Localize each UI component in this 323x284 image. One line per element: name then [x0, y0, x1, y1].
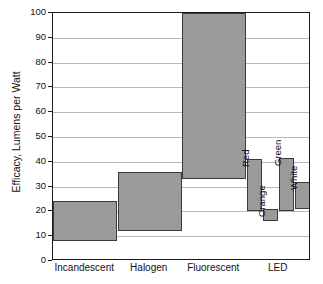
y-tick-label: 10 — [35, 230, 46, 240]
gridline — [53, 137, 309, 138]
series-label-orange: Orange — [257, 185, 267, 217]
gridline — [53, 63, 309, 64]
y-tick-label: 100 — [30, 7, 46, 17]
series-label-green: Green — [273, 140, 283, 166]
x-tick-label-led: LED — [268, 262, 287, 273]
y-tick-label: 40 — [35, 156, 46, 166]
plot-area: RedOrangeGreenWhite — [52, 12, 310, 260]
y-tick-label: 70 — [35, 81, 46, 91]
y-axis-ticks: 0102030405060708090100 — [0, 0, 52, 284]
y-tick-label: 30 — [35, 181, 46, 191]
x-tick-label-fluorescent: Fluorescent — [187, 262, 239, 273]
y-tick-label: 80 — [35, 57, 46, 67]
bar-fluorescent — [182, 13, 246, 179]
gridline — [53, 162, 309, 163]
efficacy-bar-chart: Efficacy, Lumens per Watt 01020304050607… — [0, 0, 323, 284]
x-tick-label-incandescent: Incandescent — [55, 262, 115, 273]
y-tick-label: 0 — [41, 255, 46, 265]
y-tick-label: 90 — [35, 32, 46, 42]
y-tick-label: 20 — [35, 205, 46, 215]
x-axis-labels: IncandescentHalogenFluorescentLED — [52, 262, 310, 282]
x-tick-label-halogen: Halogen — [130, 262, 167, 273]
y-tick-mark — [48, 260, 52, 261]
bar-halogen — [118, 172, 182, 232]
series-label-red: Red — [241, 150, 251, 167]
bar-incandescent — [53, 201, 117, 241]
gridline — [53, 112, 309, 113]
y-tick-label: 50 — [35, 131, 46, 141]
gridline — [53, 38, 309, 39]
series-label-white: White — [289, 165, 299, 189]
y-tick-label: 60 — [35, 106, 46, 116]
gridline — [53, 87, 309, 88]
